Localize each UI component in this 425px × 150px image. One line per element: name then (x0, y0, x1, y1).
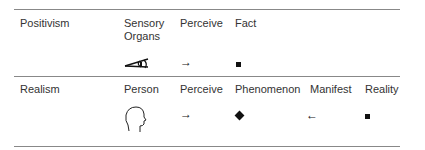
eye-icon (124, 56, 152, 70)
bottom-rule (14, 146, 400, 147)
arrow-right-icon: → (180, 107, 192, 121)
row-label-realism: Realism (20, 83, 60, 96)
middle-rule (14, 76, 400, 77)
cell-person: Person (124, 83, 159, 96)
row-label-positivism: Positivism (20, 17, 70, 30)
arrow-right-icon: → (180, 55, 192, 69)
cell-reality: Reality (365, 83, 399, 96)
head-profile-icon (124, 105, 148, 135)
square-icon (236, 62, 241, 67)
cell-manifest: Manifest (310, 83, 352, 96)
square-icon (365, 114, 370, 119)
diamond-icon (235, 111, 245, 121)
cell-perceive: Perceive (180, 17, 223, 30)
cell-fact: Fact (235, 17, 256, 30)
arrow-left-icon: ← (306, 108, 318, 122)
cell-sensory-organs: Sensory Organs (124, 17, 174, 43)
cell-perceive: Perceive (180, 83, 223, 96)
cell-phenomenon: Phenomenon (235, 83, 300, 96)
top-rule (14, 9, 400, 10)
